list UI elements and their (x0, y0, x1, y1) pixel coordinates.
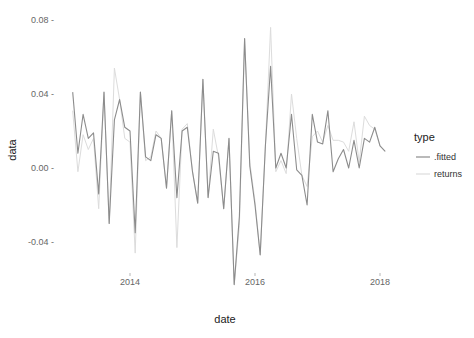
y-tick-label: 0.00 - (31, 163, 54, 173)
x-tick-label: 2016 (245, 277, 265, 287)
legend: type .fittedreturns (414, 131, 463, 179)
y-tick-label: 0.04 - (31, 89, 54, 99)
x-axis-title: date (214, 313, 235, 325)
series-line-returns (73, 27, 386, 284)
series-line-fitted (73, 39, 386, 285)
y-axis-title: data (6, 138, 18, 160)
x-axis: 201420162018 (120, 273, 390, 287)
line-chart: 0.08 -0.04 -0.00 --0.04 - 201420162018 d… (0, 0, 474, 338)
y-axis: 0.08 -0.04 -0.00 --0.04 - (28, 15, 54, 247)
legend-title: type (414, 131, 435, 143)
y-tick-label: 0.08 - (31, 15, 54, 25)
x-tick-label: 2018 (370, 277, 390, 287)
legend-label: .fitted (434, 152, 456, 162)
legend-label: returns (434, 169, 463, 179)
y-tick-label: -0.04 - (28, 237, 54, 247)
x-tick-label: 2014 (120, 277, 140, 287)
series-layer (73, 27, 386, 284)
